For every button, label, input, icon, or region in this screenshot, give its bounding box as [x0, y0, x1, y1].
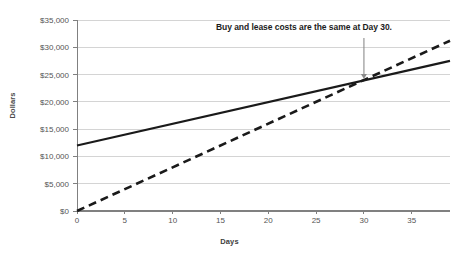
- series-line-lease: [77, 41, 450, 211]
- annotation-label: Buy and lease costs are the same at Day …: [216, 22, 392, 32]
- x-axis-title: Days: [0, 237, 459, 246]
- plot-area: [0, 0, 459, 264]
- line-chart: Dollars $0$5,000$10,000$15,000$20,000$25…: [0, 0, 459, 264]
- series-line-buy: [77, 61, 450, 146]
- annotation-arrow: [361, 38, 367, 79]
